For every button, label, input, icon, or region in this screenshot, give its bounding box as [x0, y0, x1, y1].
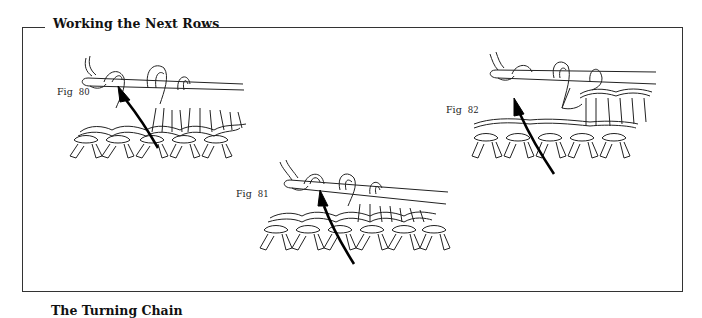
next-section-title: The Turning Chain	[51, 303, 183, 318]
fig-81-illustration-icon	[240, 160, 470, 270]
fig-80-illustration-icon	[60, 48, 260, 158]
fig-label-text: Fig	[446, 104, 462, 115]
fig-82-illustration-icon	[470, 48, 670, 178]
